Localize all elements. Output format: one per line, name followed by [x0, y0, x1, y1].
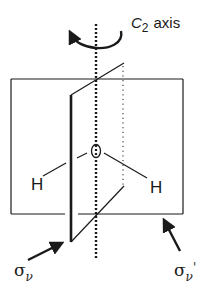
- hydrogen-right-label: H: [150, 178, 162, 197]
- c2-axis-label: C2axis: [131, 14, 180, 35]
- water-symmetry-diagram: H H C2axis σν σν': [0, 0, 200, 290]
- c2-sub: 2: [142, 21, 149, 35]
- hydrogen-left-label: H: [31, 175, 43, 194]
- sigma-v-prime-pointer-arrow: [166, 224, 180, 251]
- bond-left-back: [43, 163, 66, 176]
- bond-right: [104, 153, 147, 178]
- sigma-v-label: σν: [14, 260, 33, 284]
- sigma-v-pointer-arrow: [28, 245, 58, 260]
- bond-left-front: [77, 153, 87, 158]
- c2-main: C: [131, 14, 142, 31]
- axis-word: axis: [154, 14, 181, 31]
- sigma-v-prime-label: σν': [174, 260, 196, 284]
